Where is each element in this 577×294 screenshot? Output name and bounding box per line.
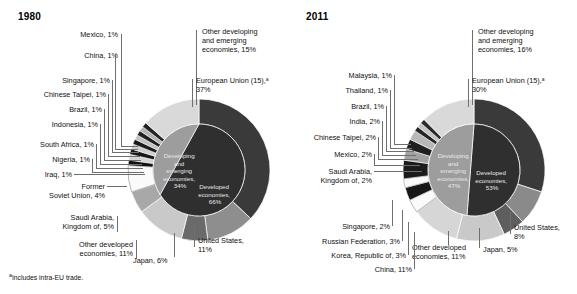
callout-nigeria-1980: Nigeria, 1% <box>0 155 90 164</box>
callout-other-developing-and-emerging-economies-1980: Other developing and emerging economies,… <box>202 27 258 55</box>
callout-line: Former <box>0 182 105 191</box>
callout-line: Singapore, 2% <box>288 222 390 231</box>
leader-line-united-states-1980 <box>194 225 195 247</box>
leader-line-india-2011 <box>382 121 383 155</box>
callout-european-union-15-2011: European Union (15),ᵃ 30% <box>472 76 544 94</box>
callout-line: United States, <box>514 223 560 232</box>
callout-line: 37% <box>196 85 268 94</box>
callout-line: South Africa, 1% <box>0 140 94 149</box>
leader-line-chinese-taipei-1980 <box>108 94 109 156</box>
callout-line: China, 1% <box>0 51 118 60</box>
callout-japan-1980: Japan, 6% <box>133 256 167 265</box>
callout-line: Other developing <box>478 27 534 36</box>
callout-singapore-2011: Singapore, 2% <box>288 222 390 231</box>
leader-line-malaysia-2011 <box>394 75 395 144</box>
callout-malaysia-2011: Malaysia, 1% <box>288 71 392 80</box>
donut-svg-2011: Developed economies, 53% Developing and … <box>401 97 547 243</box>
callout-iraq-1980: Iraq, 1% <box>0 170 72 179</box>
callout-south-africa-1980: South Africa, 1% <box>0 140 94 149</box>
leader-line-south-africa-1980 <box>96 144 97 168</box>
leader-line-other-developed-economies-2011 <box>448 231 449 245</box>
callout-brazil-1980: Brazil, 1% <box>0 105 102 114</box>
figure-footnote: aIncludes intra-EU trade. <box>9 272 83 281</box>
callout-line: Malaysia, 1% <box>288 71 392 80</box>
leader-elbow-china-1980 <box>115 149 138 150</box>
callout-japan-2011: Japan, 5% <box>483 245 517 254</box>
leader-elbow-nigeria-1980 <box>92 172 144 173</box>
callout-united-states-2011: United States, 8% <box>514 223 560 241</box>
callout-line: Kingdom of, 2% <box>288 176 372 185</box>
callout-united-states-1980: United States, 11% <box>198 236 244 254</box>
callout-line: China, 11% <box>288 265 412 274</box>
callout-line: Chinese Taipei, 1% <box>0 90 106 99</box>
callout-line: Russian Federation, 3% <box>288 237 400 246</box>
leader-line-indonesia-1980 <box>100 124 101 164</box>
callout-line: Brazil, 1% <box>288 102 384 111</box>
leader-elbow-chinese-taipei-2011 <box>378 159 418 160</box>
leader-line-saudi-arabia-2011 <box>374 171 422 172</box>
leader-line-brazil-1980 <box>104 109 105 160</box>
callout-line: European Union (15),ᵃ <box>196 76 268 85</box>
leader-line-former-soviet-union-1980 <box>107 186 127 187</box>
callout-chinese-taipei-2011: Chinese Taipei, 2% <box>288 133 376 142</box>
callout-saudi-arabia-2011: Saudi Arabia, Kingdom of, 2% <box>288 167 372 185</box>
callout-line: 11% <box>198 245 244 254</box>
callout-line: Korea, Republic of, 3% <box>288 251 406 260</box>
panel-title-2011: 2011 <box>306 11 329 22</box>
callout-line: economies, 16% <box>478 45 534 54</box>
leader-line-other-developed-economies-1980 <box>136 240 137 259</box>
callout-russian-federation-2011: Russian Federation, 3% <box>288 237 400 246</box>
callout-line: Japan, 6% <box>133 256 167 265</box>
callout-line: Japan, 5% <box>483 245 517 254</box>
leader-line-united-states-2011 <box>510 212 511 234</box>
callout-european-union-15-1980: European Union (15),ᵃ 37% <box>196 76 268 94</box>
chart-panel-1980: 1980 <box>0 0 289 294</box>
panel-title-1980: 1980 <box>18 11 41 22</box>
callout-line: Mexico, 1% <box>0 30 118 39</box>
callout-line: Chinese Taipei, 2% <box>288 133 376 142</box>
leader-elbow-thailand-2011 <box>390 148 412 149</box>
chart-panel-2011: 2011 <box>288 0 577 294</box>
callout-line: Soviet Union, 4% <box>0 191 105 200</box>
leader-elbow-malaysia-2011 <box>394 144 411 145</box>
leader-line-european-union-15-1980 <box>192 79 193 107</box>
callout-chinese-taipei-1980: Chinese Taipei, 1% <box>0 90 106 99</box>
callout-line: Indonesia, 1% <box>0 120 98 129</box>
callout-korea-republic-of-2011: Korea, Republic of, 3% <box>288 251 406 260</box>
callout-china-1980: China, 1% <box>0 51 118 60</box>
callout-china-2011: China, 11% <box>288 265 412 274</box>
callout-thailand-2011: Thailand, 1% <box>288 86 388 95</box>
leader-line-saudi-arabia-1980 <box>117 216 118 232</box>
callout-mexico-1980: Mexico, 1% <box>0 30 118 39</box>
leader-elbow-mexico-2011 <box>374 165 420 166</box>
callout-india-2011: India, 2% <box>288 117 380 126</box>
callout-line: 8% <box>514 232 560 241</box>
callout-mexico-2011: Mexico, 2% <box>288 150 372 159</box>
callout-singapore-1980: Singapore, 1% <box>0 76 110 85</box>
leader-elbow-indonesia-1980 <box>100 164 142 165</box>
leader-line-russian-federation-2011 <box>402 210 403 241</box>
footnote-text: Includes intra-EU trade. <box>12 274 83 281</box>
leader-elbow-mexico-1980 <box>121 146 138 147</box>
leader-line-singapore-1980 <box>112 80 113 152</box>
callout-line: Brazil, 1% <box>0 105 102 114</box>
donut-svg-1980: Developed economies, 66% Developing and … <box>126 97 272 243</box>
callout-other-developing-and-emerging-economies-2011: Other developing and emerging economies,… <box>478 27 534 55</box>
leader-line-japan-2011 <box>479 228 480 248</box>
leader-line-thailand-2011 <box>390 90 391 148</box>
callout-indonesia-1980: Indonesia, 1% <box>0 120 98 129</box>
callout-line: Nigeria, 1% <box>0 155 90 164</box>
leader-line-nigeria-1980 <box>92 159 93 172</box>
callout-line: and emerging <box>478 36 534 45</box>
leader-line-chinese-taipei-2011 <box>378 137 379 159</box>
leader-elbow-india-2011 <box>382 155 416 156</box>
donut-chart-1980: Developed economies, 66% Developing and … <box>126 97 272 243</box>
callout-former-soviet-union-1980: Former Soviet Union, 4% <box>0 182 105 200</box>
callout-line: Thailand, 1% <box>288 86 388 95</box>
callout-line: United States, <box>198 236 244 245</box>
callout-line: Other developed <box>412 243 466 252</box>
callout-line: Other developing <box>202 27 258 36</box>
callout-line: Saudi Arabia, <box>288 167 372 176</box>
callout-line: economies, 15% <box>202 45 258 54</box>
callout-line: economies, 11% <box>0 249 133 258</box>
